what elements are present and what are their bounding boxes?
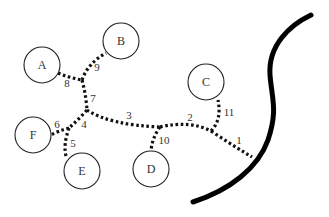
- node-label: D: [147, 162, 156, 176]
- edge-label-11: 11: [224, 106, 235, 118]
- edge-label-2: 2: [187, 111, 193, 123]
- node-label: C: [202, 75, 210, 89]
- node-d: D: [133, 151, 169, 187]
- edge-2: [160, 124, 211, 131]
- node-f: F: [15, 117, 51, 153]
- node-label: B: [117, 34, 125, 48]
- node-c: C: [188, 64, 224, 100]
- edge-11: [211, 100, 219, 131]
- node-label: F: [30, 128, 37, 142]
- edge-1: [211, 131, 252, 157]
- edges-group: [51, 53, 252, 157]
- edge-label-6: 6: [54, 118, 60, 130]
- tree-network-diagram: 1234567891011 ABCDEF: [0, 0, 329, 217]
- edge-8: [58, 73, 82, 80]
- node-a: A: [24, 47, 60, 83]
- node-label: A: [38, 58, 47, 72]
- edge-label-10: 10: [159, 134, 171, 146]
- boundary-curve: [193, 15, 311, 202]
- node-label: E: [78, 164, 85, 178]
- nodes-group: ABCDEF: [15, 23, 224, 189]
- edge-label-7: 7: [90, 92, 96, 104]
- edge-5: [65, 128, 69, 156]
- edge-label-9: 9: [94, 61, 100, 73]
- node-e: E: [64, 153, 100, 189]
- edge-label-5: 5: [70, 137, 76, 149]
- edge-label-8: 8: [64, 77, 70, 89]
- edge-3: [87, 110, 160, 127]
- node-b: B: [103, 23, 139, 59]
- edge-label-1: 1: [236, 134, 242, 146]
- edge-7: [82, 80, 87, 110]
- edge-label-4: 4: [81, 118, 87, 130]
- edge-label-3: 3: [126, 109, 132, 121]
